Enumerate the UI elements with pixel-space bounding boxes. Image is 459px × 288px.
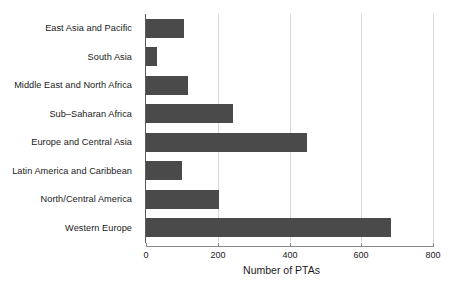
bar <box>146 218 391 237</box>
bar <box>146 47 157 66</box>
x-tick-label: 400 <box>282 250 297 260</box>
bar-chart: East Asia and PacificSouth AsiaMiddle Ea… <box>0 0 459 288</box>
x-tick-mark <box>290 243 291 247</box>
bar <box>146 104 233 123</box>
bar <box>146 161 182 180</box>
gridline-400 <box>290 14 291 242</box>
bar <box>146 19 184 38</box>
plot-area <box>146 14 433 242</box>
x-axis-title: Number of PTAs <box>0 264 459 276</box>
gridline-800 <box>433 14 434 242</box>
category-label: Middle East and North Africa <box>14 80 132 90</box>
category-label: Europe and Central Asia <box>31 137 132 147</box>
x-tick-label: 600 <box>353 250 368 260</box>
bar <box>146 76 188 95</box>
x-tick-label: 800 <box>425 250 440 260</box>
category-label: South Asia <box>88 52 132 62</box>
bar <box>146 133 307 152</box>
category-label: Latin America and Caribbean <box>12 166 132 176</box>
x-tick-mark <box>146 243 147 247</box>
category-label: Western Europe <box>65 223 132 233</box>
x-tick-mark <box>433 243 434 247</box>
bar <box>146 190 219 209</box>
x-tick-label: 0 <box>143 250 148 260</box>
category-label: Sub–Saharan Africa <box>49 109 132 119</box>
x-tick-mark <box>218 243 219 247</box>
category-axis-labels: East Asia and PacificSouth AsiaMiddle Ea… <box>0 14 140 242</box>
gridline-600 <box>361 14 362 242</box>
x-tick-mark <box>361 243 362 247</box>
category-label: East Asia and Pacific <box>45 23 132 33</box>
category-label: North/Central America <box>41 194 132 204</box>
x-tick-label: 200 <box>210 250 225 260</box>
y-axis-line <box>145 14 146 243</box>
